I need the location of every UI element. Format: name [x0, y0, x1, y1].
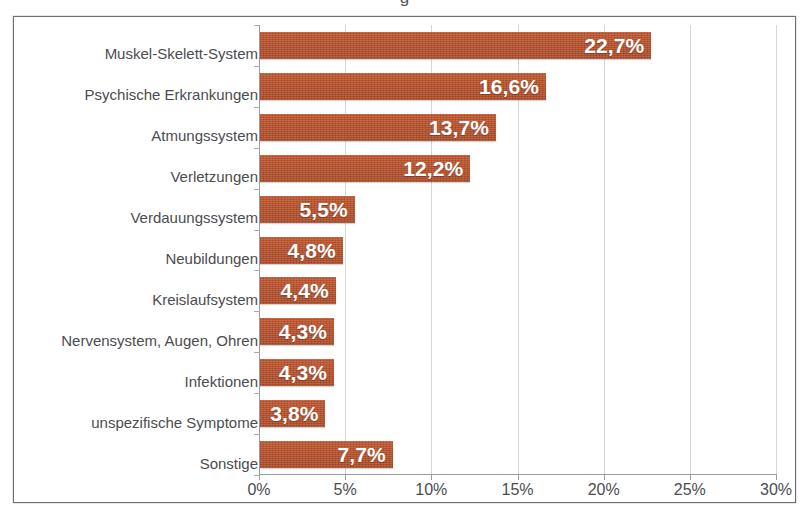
- bar-verdauungssystem[interactable]: 5,5%: [260, 196, 355, 223]
- category-label-infektionen: Infektionen: [185, 374, 258, 389]
- bar-muskel-skelett-system[interactable]: 22,7%: [260, 32, 651, 59]
- x-axis-label-0%: 0%: [247, 482, 270, 498]
- bar-row: 4,3%: [259, 359, 776, 386]
- category-label-psychische-erkrankungen: Psychische Erkrankungen: [85, 87, 258, 102]
- plot-area: 22,7%16,6%13,7%12,2%5,5%4,8%4,4%4,3%4,3%…: [259, 25, 776, 475]
- category-label-kreislaufsystem: Kreislaufsystem: [152, 292, 258, 307]
- bar-row: 4,3%: [259, 318, 776, 345]
- bar-unspezifische-symptome[interactable]: 3,8%: [260, 400, 325, 427]
- x-axis-label-25%: 25%: [674, 482, 706, 498]
- bar-neubildungen[interactable]: 4,8%: [260, 237, 343, 264]
- bar-kreislaufsystem[interactable]: 4,4%: [260, 277, 336, 304]
- category-axis-labels: Muskel-Skelett-SystemPsychische Erkranku…: [28, 41, 258, 491]
- chart-title-clipped: g: [0, 0, 809, 6]
- y-tick: [254, 25, 260, 26]
- category-label-verdauungssystem: Verdauungssystem: [130, 210, 258, 225]
- bar-row: 7,7%: [259, 441, 776, 468]
- bar-value-label: 4,4%: [281, 280, 329, 301]
- bar-infektionen[interactable]: 4,3%: [260, 359, 334, 386]
- bar-row: 22,7%: [259, 32, 776, 59]
- bar-value-label: 7,7%: [337, 444, 385, 465]
- x-axis-label-30%: 30%: [760, 482, 792, 498]
- bar-value-label: 13,7%: [429, 117, 489, 138]
- x-axis-label-20%: 20%: [588, 482, 620, 498]
- bar-value-label: 4,8%: [287, 240, 335, 261]
- x-axis-tick-labels: 0%5%10%15%20%25%30%: [259, 482, 776, 506]
- gridline-30%: [776, 25, 777, 475]
- bar-row: 4,8%: [259, 237, 776, 264]
- bar-value-label: 4,3%: [279, 321, 327, 342]
- y-axis-line: [259, 25, 260, 475]
- bar-atmungssystem[interactable]: 13,7%: [260, 114, 496, 141]
- bar-value-label: 12,2%: [403, 158, 463, 179]
- x-axis-label-15%: 15%: [501, 482, 533, 498]
- bar-verletzungen[interactable]: 12,2%: [260, 155, 470, 182]
- category-label-atmungssystem: Atmungssystem: [151, 128, 258, 143]
- category-label-nervensystem-augen-ohren: Nervensystem, Augen, Ohren: [61, 333, 258, 348]
- chart-figure: g 22,7%16,6%13,7%12,2%5,5%4,8%4,4%4,3%4,…: [0, 0, 809, 520]
- bar-row: 5,5%: [259, 196, 776, 223]
- category-label-verletzungen: Verletzungen: [170, 169, 258, 184]
- bar-psychische-erkrankungen[interactable]: 16,6%: [260, 73, 546, 100]
- x-axis-label-5%: 5%: [334, 482, 357, 498]
- bar-row: 3,8%: [259, 400, 776, 427]
- bar-row: 16,6%: [259, 73, 776, 100]
- x-tick-30%: [776, 474, 777, 480]
- x-axis-line: [259, 474, 776, 475]
- category-label-sonstige: Sonstige: [200, 456, 258, 471]
- chart-frame: 22,7%16,6%13,7%12,2%5,5%4,8%4,4%4,3%4,3%…: [13, 16, 796, 503]
- bar-value-label: 3,8%: [270, 403, 318, 424]
- x-axis-label-10%: 10%: [415, 482, 447, 498]
- bar-sonstige[interactable]: 7,7%: [260, 441, 393, 468]
- category-label-muskel-skelett-system: Muskel-Skelett-System: [105, 46, 258, 61]
- bar-value-label: 22,7%: [584, 35, 644, 56]
- category-label-unspezifische-symptome: unspezifische Symptome: [91, 415, 258, 430]
- bar-value-label: 16,6%: [479, 76, 539, 97]
- category-label-neubildungen: Neubildungen: [165, 251, 258, 266]
- bar-nervensystem-augen-ohren[interactable]: 4,3%: [260, 318, 334, 345]
- bar-row: 4,4%: [259, 277, 776, 304]
- bar-row: 13,7%: [259, 114, 776, 141]
- bar-value-label: 5,5%: [300, 199, 348, 220]
- bar-row: 12,2%: [259, 155, 776, 182]
- bar-value-label: 4,3%: [279, 362, 327, 383]
